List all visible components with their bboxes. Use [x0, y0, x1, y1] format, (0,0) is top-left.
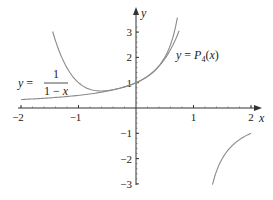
- x-tick-label: −1: [70, 111, 82, 123]
- annotation-reciprocal: y = 1 1 − x: [17, 67, 69, 98]
- annot-left-eq: =: [23, 76, 33, 90]
- y-tick-label: −2: [120, 153, 132, 165]
- y-axis-arrow-icon: [133, 7, 139, 15]
- x-tick-label: 2: [248, 111, 254, 123]
- x-axis-label: x: [258, 111, 265, 125]
- annot-left-numerator: 1: [53, 67, 59, 81]
- reciprocal-curve: [212, 133, 251, 184]
- annotation-p4: y = P4(x): [175, 48, 219, 64]
- p4-curve: [53, 31, 180, 91]
- x-tick-label: 1: [191, 111, 197, 123]
- annot-left-denominator: 1 − x: [44, 84, 69, 98]
- y-tick-label: −3: [120, 178, 132, 190]
- y-axis-label: y: [140, 6, 147, 20]
- svg-text:y =: y =: [17, 76, 33, 90]
- y-tick-label: −1: [120, 127, 132, 139]
- function-plot: −2−112−3−2−1123 x y y = 1 1 − x y = P4(x…: [0, 0, 273, 200]
- annot-right-eq: =: [181, 48, 194, 62]
- y-tick-label: 1: [127, 77, 133, 89]
- annot-right-arg: (x): [205, 48, 218, 62]
- y-tick-label: 3: [127, 26, 133, 38]
- svg-text:y = P4(x): y = P4(x): [175, 48, 219, 64]
- x-tick-label: −2: [12, 111, 24, 123]
- y-tick-label: 2: [127, 51, 133, 63]
